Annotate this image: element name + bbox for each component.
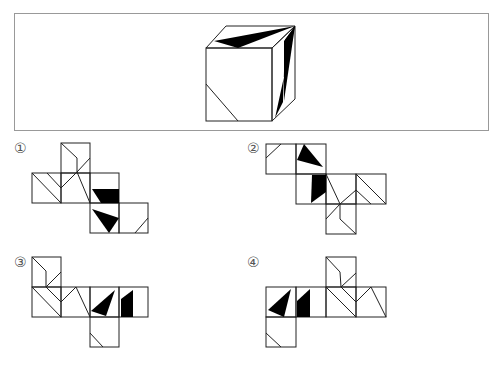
option-3-net[interactable] — [32, 257, 148, 347]
option-2-label[interactable]: ② — [247, 140, 260, 156]
option-3-label[interactable]: ③ — [14, 254, 27, 270]
option-4-label[interactable]: ④ — [247, 254, 260, 270]
option-1-label[interactable]: ① — [14, 140, 27, 156]
option-1-net[interactable] — [32, 143, 148, 233]
question-frame — [15, 14, 489, 131]
puzzle-figure — [0, 0, 494, 365]
option-2-net[interactable] — [266, 144, 386, 234]
option-4-net[interactable] — [266, 257, 386, 347]
cube-3d — [206, 26, 295, 121]
